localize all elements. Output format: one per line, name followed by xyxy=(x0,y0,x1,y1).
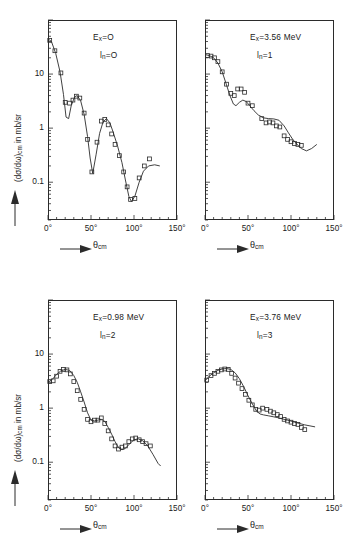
annotation-excitation-energy: Ex=0.98 MeV xyxy=(93,312,144,322)
ln-symbol: ln=1 xyxy=(257,50,273,60)
x-axis-arrow-icon xyxy=(217,244,251,254)
y-axis-label: (dσ/dω)cm in mb/sr xyxy=(14,114,23,182)
annotation-excitation-energy: Ex=3.56 MeV xyxy=(250,32,301,42)
y-axis-label: (dσ/dω)cm in mb/sr xyxy=(14,394,23,462)
x-tick-label: 150° xyxy=(169,224,186,233)
y-tick-label: 0.1 xyxy=(22,176,44,186)
y-axis-arrow-icon xyxy=(10,188,20,226)
y-tick-label: 10 xyxy=(22,68,44,78)
x-tick-label: 50° xyxy=(242,504,254,513)
ex-symbol: Ex=0.98 MeV xyxy=(93,312,144,322)
x-axis-arrow-icon xyxy=(217,524,251,534)
x-axis-label: θcm xyxy=(250,240,264,250)
x-axis-label: θcm xyxy=(93,240,107,250)
y-axis-arrow-icon xyxy=(10,468,20,506)
ln-symbol: ln=2 xyxy=(100,330,116,340)
x-tick-label: 0° xyxy=(201,504,209,513)
ex-symbol: Ex=3.76 MeV xyxy=(250,312,301,322)
theta-cm-symbol: θcm xyxy=(93,520,107,530)
x-tick-label: 50° xyxy=(85,504,97,513)
cross-section-symbol: (dσ/dω)cm in mb/sr xyxy=(14,394,23,462)
x-tick-label: 50° xyxy=(85,224,97,233)
x-axis-label: θcm xyxy=(250,520,264,530)
ex-symbol: Ex=3.56 MeV xyxy=(250,32,301,42)
x-tick-label: 50° xyxy=(242,224,254,233)
theta-cm-symbol: θcm xyxy=(250,520,264,530)
x-axis-arrow-icon xyxy=(60,244,94,254)
x-axis-arrow-icon xyxy=(60,524,94,534)
x-tick-label: 0° xyxy=(201,224,209,233)
y-tick-label: 1 xyxy=(22,402,44,412)
y-tick-label: 10 xyxy=(22,348,44,358)
x-tick-label: 0° xyxy=(44,224,52,233)
y-tick-label: 0.1 xyxy=(22,456,44,466)
ln-symbol: ln=O xyxy=(100,50,118,60)
x-tick-label: 100° xyxy=(126,504,143,513)
theta-cm-symbol: θcm xyxy=(250,240,264,250)
figure-angular-distributions: Ex=Oln=O1010.10°50°100°150°θcm(dσ/dω)cm … xyxy=(0,0,354,558)
ex-symbol: Ex=O xyxy=(93,32,114,42)
x-tick-label: 100° xyxy=(126,224,143,233)
y-tick-label: 1 xyxy=(22,122,44,132)
x-tick-label: 150° xyxy=(326,504,343,513)
annotation-angular-momentum: ln=2 xyxy=(100,330,116,340)
annotation-angular-momentum: ln=3 xyxy=(257,330,273,340)
theta-cm-symbol: θcm xyxy=(93,240,107,250)
x-tick-label: 0° xyxy=(44,504,52,513)
annotation-excitation-energy: Ex=3.76 MeV xyxy=(250,312,301,322)
annotation-angular-momentum: ln=1 xyxy=(257,50,273,60)
x-tick-label: 150° xyxy=(169,504,186,513)
x-tick-label: 150° xyxy=(326,224,343,233)
annotation-angular-momentum: ln=O xyxy=(100,50,118,60)
x-tick-label: 100° xyxy=(283,224,300,233)
annotation-excitation-energy: Ex=O xyxy=(93,32,114,42)
cross-section-symbol: (dσ/dω)cm in mb/sr xyxy=(14,114,23,182)
x-tick-label: 100° xyxy=(283,504,300,513)
x-axis-label: θcm xyxy=(93,520,107,530)
ln-symbol: ln=3 xyxy=(257,330,273,340)
